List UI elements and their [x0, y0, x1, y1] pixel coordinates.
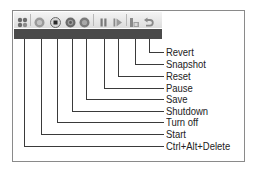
- start-button[interactable]: [34, 14, 45, 25]
- snapshot-icon: [129, 17, 140, 28]
- label-start: Start: [166, 128, 186, 140]
- toolbar-separator: [30, 14, 31, 26]
- save-leader-vertical: [86, 39, 87, 99]
- turn-off-icon: [50, 17, 61, 28]
- toolbar-separator: [93, 14, 94, 26]
- label-reset: Reset: [166, 70, 191, 82]
- start-leader-vertical: [41, 39, 42, 134]
- label-snapshot: Snapshot: [166, 58, 206, 70]
- pause-leader-horizontal: [104, 88, 164, 89]
- revert-button[interactable]: [143, 14, 154, 25]
- shutdown-leader-horizontal: [72, 111, 164, 112]
- turn-off-button[interactable]: [50, 14, 61, 25]
- pause-button[interactable]: [98, 14, 109, 25]
- snapshot-leader-horizontal: [135, 64, 164, 65]
- revert-icon: [143, 17, 154, 28]
- save-icon: [79, 17, 90, 28]
- revert-leader-vertical: [149, 39, 150, 52]
- shutdown-button[interactable]: [65, 14, 76, 25]
- label-ctrl-alt-delete: Ctrl+Alt+Delete: [166, 140, 230, 152]
- start-icon: [34, 17, 45, 28]
- ctrl-alt-delete-leader-vertical: [24, 39, 25, 146]
- snapshot-button[interactable]: [129, 14, 140, 25]
- ctrl-alt-delete-button[interactable]: [17, 14, 28, 25]
- shutdown-icon: [65, 17, 76, 28]
- ctrl-alt-delete-icon: [17, 17, 28, 28]
- turn-off-leader-horizontal: [57, 122, 164, 123]
- save-leader-horizontal: [86, 99, 164, 100]
- console-area-bar: [14, 29, 162, 39]
- start-leader-horizontal: [41, 134, 164, 135]
- reset-icon: [112, 17, 123, 28]
- reset-leader-vertical: [118, 39, 119, 76]
- label-save: Save: [166, 93, 188, 105]
- turn-off-leader-vertical: [57, 39, 58, 122]
- revert-leader-horizontal: [149, 52, 164, 53]
- snapshot-leader-vertical: [135, 39, 136, 64]
- pause-icon: [98, 17, 109, 28]
- toolbar-separator: [126, 14, 127, 26]
- save-button[interactable]: [79, 14, 90, 25]
- pause-leader-vertical: [104, 39, 105, 88]
- reset-button[interactable]: [112, 14, 123, 25]
- label-revert: Revert: [166, 46, 194, 58]
- reset-leader-horizontal: [118, 76, 164, 77]
- ctrl-alt-delete-leader-horizontal: [24, 146, 164, 147]
- label-turn-off: Turn off: [166, 116, 198, 128]
- shutdown-leader-vertical: [72, 39, 73, 111]
